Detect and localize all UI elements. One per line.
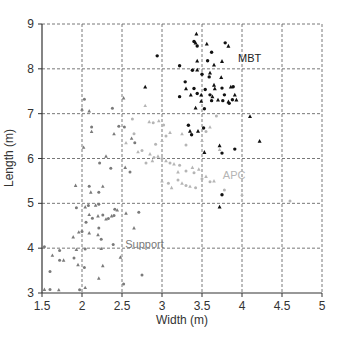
grid-lines	[42, 24, 322, 293]
data-point	[136, 150, 140, 153]
data-point	[188, 184, 192, 187]
data-point	[96, 233, 100, 236]
data-point	[208, 125, 212, 128]
data-point	[258, 139, 262, 143]
data-point	[189, 93, 193, 97]
data-point	[130, 136, 134, 139]
data-point	[161, 157, 164, 160]
data-point	[129, 170, 132, 173]
data-point	[109, 167, 112, 170]
data-point	[165, 135, 168, 138]
data-point	[90, 126, 93, 129]
data-point	[94, 203, 98, 206]
series-apc	[124, 104, 291, 203]
data-point	[228, 102, 231, 105]
data-point	[208, 93, 211, 96]
data-point	[83, 286, 87, 289]
data-point	[289, 200, 292, 203]
data-point	[107, 217, 110, 220]
data-point	[132, 226, 136, 229]
data-point	[151, 159, 155, 162]
data-point	[43, 288, 47, 291]
data-point	[190, 133, 193, 136]
data-point	[122, 283, 125, 286]
data-point	[208, 71, 212, 75]
data-point	[220, 151, 223, 154]
data-point	[143, 104, 147, 107]
data-point	[73, 257, 76, 260]
y-tick-label: 3	[27, 286, 34, 300]
data-point	[157, 119, 161, 122]
data-point	[202, 126, 205, 129]
data-point	[196, 129, 200, 133]
data-point	[123, 126, 126, 129]
scatter-chart: 1.522.533.544.553456789 MBTAPCSupport Wi…	[0, 0, 342, 338]
data-point	[78, 288, 81, 291]
x-tick-label: 2	[79, 299, 86, 313]
annotation-support: Support	[125, 238, 164, 250]
data-point	[43, 245, 46, 248]
y-tick-label: 4	[27, 241, 34, 255]
data-point	[104, 154, 108, 157]
data-point	[212, 83, 216, 87]
data-point	[204, 88, 207, 91]
data-point	[192, 87, 195, 90]
data-point	[202, 150, 206, 154]
x-tick-label: 1.5	[34, 299, 51, 313]
data-point	[100, 238, 103, 241]
data-point	[113, 214, 116, 217]
data-point	[196, 92, 199, 95]
data-point	[199, 93, 203, 97]
data-point	[184, 80, 187, 83]
data-point	[191, 68, 194, 71]
y-axis-label: Length (m)	[2, 129, 16, 187]
data-point	[220, 193, 223, 196]
data-point	[97, 276, 101, 279]
data-point	[156, 154, 160, 157]
data-point	[156, 54, 159, 57]
y-tick-label: 7	[27, 107, 34, 121]
data-point	[141, 149, 144, 152]
data-point	[113, 208, 116, 211]
x-tick-label: 3.5	[194, 299, 211, 313]
data-point	[234, 98, 238, 102]
data-point	[184, 86, 188, 90]
data-point	[187, 124, 190, 127]
data-point	[208, 75, 211, 78]
data-point	[216, 98, 220, 102]
data-point	[167, 182, 170, 185]
data-point	[145, 161, 148, 164]
data-point	[111, 107, 114, 110]
data-point	[200, 73, 203, 76]
data-point	[194, 106, 198, 110]
data-point	[205, 42, 209, 46]
data-point	[194, 186, 197, 189]
data-point	[233, 147, 236, 150]
data-point	[164, 159, 168, 162]
data-point	[185, 144, 188, 147]
data-point	[80, 107, 84, 110]
data-point	[83, 266, 86, 269]
y-tick-label: 8	[27, 62, 34, 76]
data-point	[172, 162, 176, 165]
data-point	[219, 75, 223, 79]
data-point	[180, 181, 184, 184]
data-point	[74, 184, 78, 187]
data-point	[170, 186, 174, 189]
data-point	[232, 85, 235, 88]
y-tick-label: 6	[27, 152, 34, 166]
x-axis-label: Width (m)	[156, 313, 208, 327]
data-point	[240, 192, 244, 195]
data-point	[178, 164, 181, 167]
data-point	[197, 167, 201, 170]
data-point	[148, 152, 152, 155]
data-point	[206, 59, 209, 62]
x-tick-label: 2.5	[114, 299, 131, 313]
data-point	[96, 214, 100, 217]
data-point	[188, 129, 192, 133]
data-point	[143, 85, 147, 89]
data-point	[62, 258, 66, 261]
data-point	[76, 263, 80, 266]
data-point	[131, 118, 134, 121]
data-point	[212, 63, 216, 67]
